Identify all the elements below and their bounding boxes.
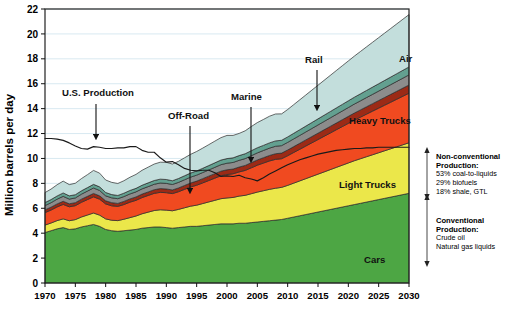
ytick-label-16: 16 bbox=[27, 78, 39, 89]
xtick-label-1975: 1975 bbox=[65, 290, 87, 301]
nonconventional-heading-line1: Non-conventional bbox=[436, 152, 513, 161]
ytick-label-4: 4 bbox=[32, 228, 38, 239]
ytick-label-18: 18 bbox=[27, 53, 39, 64]
annotation-label-marine: Marine bbox=[231, 91, 262, 102]
ytick-label-10: 10 bbox=[27, 153, 39, 164]
xtick-label-1995: 1995 bbox=[186, 290, 208, 301]
xtick-label-2015: 2015 bbox=[307, 290, 329, 301]
annotation-label-air: Air bbox=[399, 53, 413, 64]
conventional-item-1: Natural gas liquids bbox=[436, 243, 513, 252]
xtick-label-2010: 2010 bbox=[277, 290, 298, 301]
ytick-label-14: 14 bbox=[27, 103, 39, 114]
nonconventional-production-note: Non-conventional Production: 53% coal-to… bbox=[436, 152, 513, 196]
ytick-label-8: 8 bbox=[32, 178, 38, 189]
xtick-label-1990: 1990 bbox=[156, 290, 177, 301]
ytick-label-22: 22 bbox=[27, 4, 39, 15]
xtick-label-2020: 2020 bbox=[338, 290, 359, 301]
xtick-label-2005: 2005 bbox=[247, 290, 269, 301]
ytick-label-2: 2 bbox=[32, 253, 38, 264]
xtick-label-2000: 2000 bbox=[216, 290, 237, 301]
ytick-label-0: 0 bbox=[32, 278, 38, 289]
y-axis-title: Million barrels per day bbox=[3, 93, 15, 216]
chart-container: Million barrels per day 0246810121416182… bbox=[0, 0, 513, 313]
xtick-label-1985: 1985 bbox=[125, 290, 147, 301]
conventional-heading-line1: Conventional bbox=[436, 216, 513, 225]
ytick-label-20: 20 bbox=[27, 29, 39, 40]
xtick-label-2025: 2025 bbox=[368, 290, 390, 301]
annotation-label-off-road: Off-Road bbox=[168, 110, 209, 121]
nonconventional-item-2: 18% shale, GTL bbox=[436, 188, 513, 197]
xtick-label-1970: 1970 bbox=[34, 290, 55, 301]
ytick-label-6: 6 bbox=[32, 203, 38, 214]
annotation-label-cars: Cars bbox=[364, 254, 385, 265]
annotation-label-heavy-trucks: Heavy Trucks bbox=[349, 115, 411, 126]
annotation-label-us-production: U.S. Production bbox=[62, 87, 134, 98]
xtick-label-1980: 1980 bbox=[95, 290, 116, 301]
conventional-production-note: Conventional Production: Crude oil Natur… bbox=[436, 216, 513, 252]
xtick-label-2030: 2030 bbox=[398, 290, 419, 301]
ytick-label-12: 12 bbox=[27, 128, 39, 139]
annotation-label-rail: Rail bbox=[305, 54, 323, 65]
annotation-label-light-trucks: Light Trucks bbox=[339, 179, 396, 190]
